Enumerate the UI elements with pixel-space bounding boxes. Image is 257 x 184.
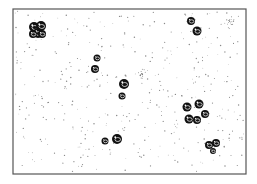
faint-spots [138, 19, 234, 79]
cluster-right-cluster [183, 100, 210, 125]
microscopy-illustration [0, 0, 257, 184]
cell-clusters [29, 17, 220, 154]
cluster-top-left [29, 21, 46, 38]
cluster-bottom-pair [102, 134, 123, 145]
figure-canvas [0, 0, 257, 184]
cluster-bottom-right [205, 139, 220, 154]
cluster-top-right-pair [187, 17, 202, 36]
cluster-left-mid-pair [91, 55, 101, 74]
cluster-center [119, 79, 130, 100]
